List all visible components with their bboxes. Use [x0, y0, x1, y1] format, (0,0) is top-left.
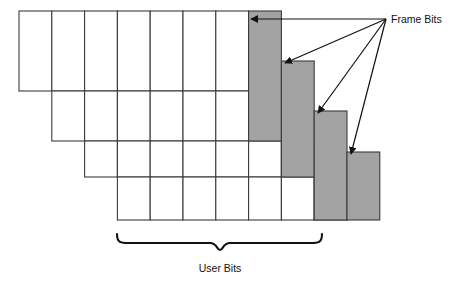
- user-bit-cell: [85, 91, 118, 141]
- user-bit-cell: [216, 11, 249, 91]
- user-bit-cell: [249, 141, 282, 177]
- frame-bit-cell: [281, 61, 314, 177]
- user-bit-cell: [19, 11, 52, 91]
- user-bit-cell: [150, 177, 183, 220]
- user-bit-cell: [281, 177, 314, 220]
- frame-bit-arrow: [285, 19, 386, 63]
- user-bit-cell: [52, 11, 85, 91]
- user-bit-cell: [85, 141, 118, 177]
- user-bits-brace: [117, 234, 322, 250]
- frame-bit-arrow: [351, 19, 386, 154]
- user-bit-cell: [52, 91, 85, 141]
- frame-bit-cell: [249, 11, 282, 141]
- user-bit-cell: [183, 141, 216, 177]
- user-bit-cell: [216, 91, 249, 141]
- user-bit-cell: [150, 11, 183, 91]
- frame-bits-label: Frame Bits: [391, 13, 442, 25]
- frame-bit-cell: [347, 152, 380, 220]
- user-bits-label: User Bits: [199, 262, 242, 274]
- user-bit-cell: [150, 141, 183, 177]
- user-bit-cell: [117, 11, 150, 91]
- frame-bit-cell: [314, 111, 347, 220]
- user-bit-cell: [216, 141, 249, 177]
- user-bit-cell: [183, 91, 216, 141]
- user-bit-cell: [183, 177, 216, 220]
- frame-bit-arrow: [318, 19, 386, 113]
- frame-bits-diagram: Frame Bits User Bits: [0, 0, 454, 290]
- user-bit-cell: [183, 11, 216, 91]
- user-bit-cell: [150, 91, 183, 141]
- user-bit-cell: [117, 91, 150, 141]
- user-bit-cell: [249, 177, 282, 220]
- user-bit-cell: [216, 177, 249, 220]
- user-bit-cell: [117, 141, 150, 177]
- diagram-canvas: Frame Bits User Bits: [0, 0, 454, 290]
- user-bits-brace-path: [117, 234, 322, 250]
- user-bit-cell: [85, 11, 118, 91]
- user-bit-cell: [117, 177, 150, 220]
